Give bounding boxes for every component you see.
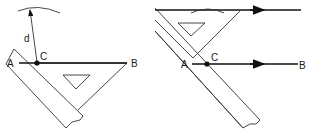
label-a-left: A [7,58,14,69]
point-c-left [34,60,39,65]
label-c-right: C [211,52,218,63]
distance-d-line [30,10,37,62]
ruler-right [155,8,260,128]
set-square-hole-right [178,23,205,36]
construction-diagram: A C B d A C B [0,0,309,132]
label-a-right: A [181,59,188,70]
ruler-right-inner [155,31,243,128]
label-b-left: B [131,58,138,69]
set-square-hole-left [63,75,90,89]
label-d-left: d [24,33,30,44]
left-figure: A C B d [6,7,138,128]
set-square-right [193,10,241,58]
arc-left [18,7,60,13]
label-c-left: C [40,51,47,62]
point-c-right [204,61,209,66]
label-b-right: B [299,60,306,71]
right-figure: A C B [155,8,306,128]
set-square-left [34,63,127,110]
